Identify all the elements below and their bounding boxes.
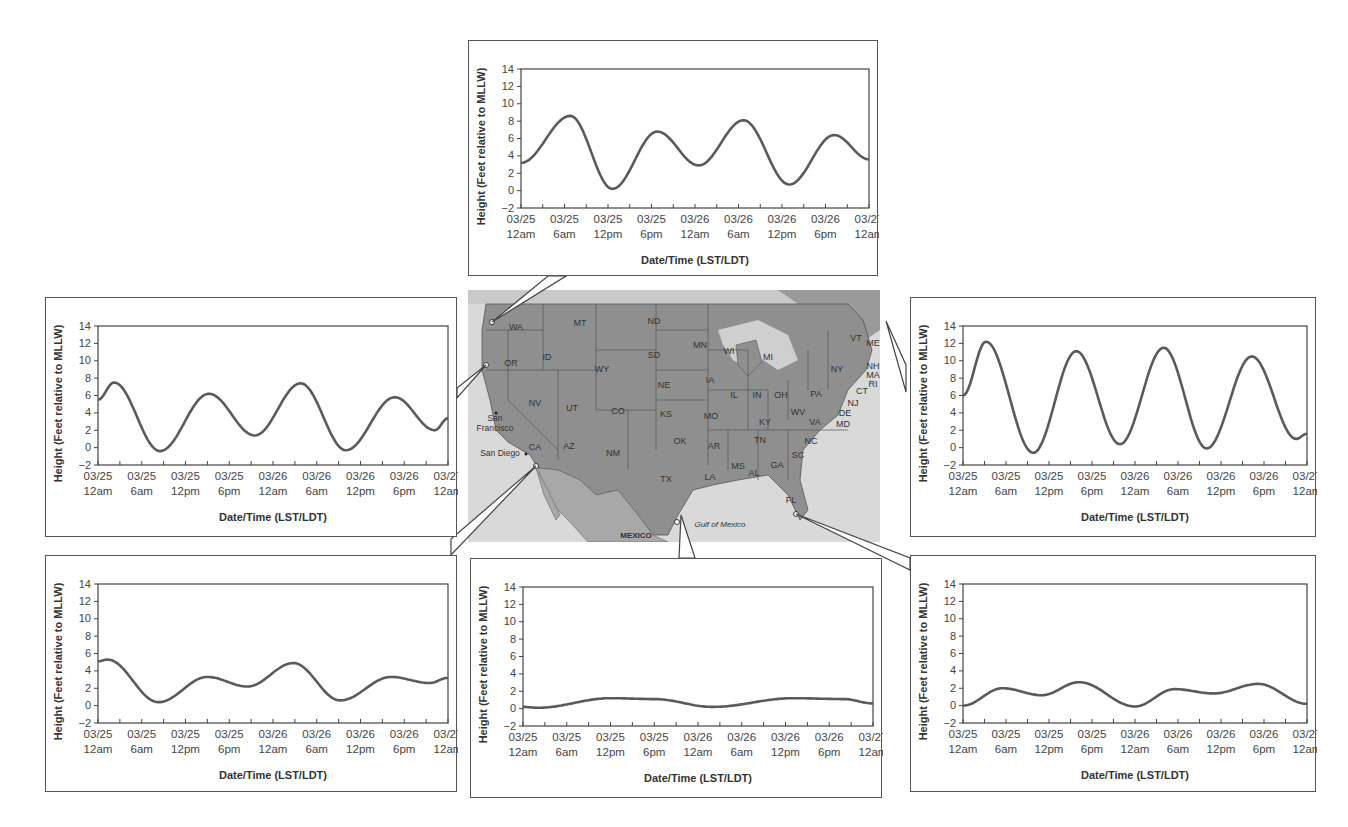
y-tick-label: 10 — [502, 97, 514, 109]
tide-chart-top-center: 14121086420−203/2512am03/256am03/2512pm0… — [468, 40, 878, 276]
y-tick-label: 6 — [510, 650, 516, 662]
state-label-md: MD — [836, 419, 850, 429]
y-tick-label: 4 — [950, 406, 956, 418]
y-tick-label: 2 — [950, 682, 956, 694]
state-label-ms: MS — [731, 461, 745, 471]
x-tick-time: 12am — [1293, 743, 1317, 755]
x-tick-time: 6pm — [643, 746, 665, 758]
x-tick-date: 03/25 — [992, 470, 1021, 482]
state-label-tn: TN — [754, 435, 766, 445]
x-tick-time: 6am — [306, 485, 328, 497]
x-tick-date: 03/25 — [507, 213, 536, 225]
x-tick-date: 03/25 — [1078, 728, 1107, 740]
x-tick-time: 6pm — [1081, 743, 1103, 755]
state-label-ct: CT — [856, 386, 868, 396]
state-label-fl: FL — [786, 495, 797, 505]
x-axis-title: Date/Time (LST/LDT) — [1081, 511, 1189, 523]
x-tick-date: 03/25 — [127, 470, 156, 482]
x-tick-time: 12am — [259, 485, 288, 497]
x-tick-time: 6am — [131, 743, 153, 755]
state-label-nd: ND — [648, 316, 661, 326]
x-tick-date: 03/26 — [1164, 728, 1193, 740]
x-tick-date: 03/25 — [552, 731, 581, 743]
state-label-me: ME — [866, 338, 880, 348]
state-label-nc: NC — [805, 436, 818, 446]
city-label-san-francisco-2: Francisco — [477, 423, 514, 433]
tide-chart-right: 14121086420−203/2512am03/256am03/2512pm0… — [910, 297, 1316, 537]
x-tick-time: 12pm — [1207, 485, 1236, 497]
y-tick-label: 4 — [508, 149, 514, 161]
y-tick-label: 14 — [504, 581, 516, 593]
x-axis-title: Date/Time (LST/LDT) — [219, 769, 327, 781]
x-tick-date: 03/25 — [637, 213, 666, 225]
state-label-wi: WI — [724, 346, 735, 356]
y-tick-label: 14 — [502, 63, 514, 75]
state-label-pa: PA — [810, 389, 821, 399]
y-tick-label: 0 — [950, 441, 956, 453]
x-tick-time: 6am — [1167, 485, 1189, 497]
x-tick-date: 03/27 — [1293, 470, 1317, 482]
x-tick-date: 03/25 — [550, 213, 579, 225]
x-tick-date: 03/25 — [84, 728, 113, 740]
x-tick-time: 12pm — [1035, 743, 1064, 755]
y-tick-label: 4 — [85, 664, 91, 676]
x-tick-time: 12pm — [1207, 743, 1236, 755]
x-tick-time: 12pm — [1035, 485, 1064, 497]
x-axis-title: Date/Time (LST/LDT) — [641, 254, 749, 266]
y-tick-label: −2 — [943, 459, 956, 471]
x-tick-date: 03/26 — [302, 470, 331, 482]
y-tick-label: 14 — [79, 320, 91, 332]
x-tick-date: 03/25 — [84, 470, 113, 482]
state-label-oh: OH — [774, 390, 788, 400]
x-tick-time: 6am — [995, 485, 1017, 497]
x-tick-time: 12am — [434, 743, 458, 755]
state-label-ky: KY — [759, 417, 771, 427]
x-tick-time: 6am — [1167, 743, 1189, 755]
state-label-ri: RI — [869, 379, 878, 389]
x-tick-date: 03/25 — [949, 728, 978, 740]
state-label-la: LA — [704, 472, 715, 482]
state-label-wa: WA — [509, 322, 523, 332]
x-tick-time: 6am — [553, 228, 575, 240]
x-tick-time: 6pm — [1081, 485, 1103, 497]
country-label-mexico: MEXICO — [620, 531, 652, 540]
x-tick-time: 12am — [949, 485, 978, 497]
x-tick-date: 03/26 — [815, 731, 844, 743]
x-tick-date: 03/26 — [1121, 728, 1150, 740]
y-tick-label: −2 — [943, 717, 956, 729]
x-tick-date: 03/26 — [1121, 470, 1150, 482]
x-tick-date: 03/25 — [509, 731, 538, 743]
x-tick-date: 03/26 — [259, 728, 288, 740]
x-tick-date: 03/26 — [346, 470, 375, 482]
state-label-ia: IA — [706, 375, 715, 385]
y-tick-label: 14 — [944, 320, 956, 332]
y-tick-label: 4 — [950, 664, 956, 676]
x-tick-date: 03/26 — [771, 731, 800, 743]
x-tick-date: 03/26 — [390, 470, 419, 482]
tide-line — [521, 116, 869, 189]
y-tick-label: 6 — [85, 389, 91, 401]
x-tick-date: 03/26 — [1250, 728, 1279, 740]
y-tick-label: 12 — [502, 80, 514, 92]
x-tick-date: 03/26 — [768, 213, 797, 225]
x-tick-time: 6am — [131, 485, 153, 497]
x-tick-date: 03/25 — [1035, 728, 1064, 740]
y-tick-label: 10 — [504, 615, 516, 627]
y-tick-label: 12 — [79, 337, 91, 349]
x-tick-time: 12am — [84, 485, 113, 497]
state-label-mn: MN — [693, 340, 707, 350]
y-tick-label: 4 — [510, 667, 516, 679]
y-tick-label: 10 — [79, 354, 91, 366]
y-tick-label: 0 — [950, 699, 956, 711]
y-tick-label: −2 — [78, 459, 91, 471]
state-label-ks: KS — [660, 409, 672, 419]
x-tick-time: 6am — [727, 228, 749, 240]
state-label-ca: CA — [529, 442, 542, 452]
x-tick-date: 03/25 — [1078, 470, 1107, 482]
x-tick-time: 12pm — [594, 228, 623, 240]
x-tick-time: 6pm — [218, 743, 240, 755]
x-tick-time: 6am — [306, 743, 328, 755]
x-tick-date: 03/26 — [727, 731, 756, 743]
x-tick-time: 12am — [1121, 743, 1150, 755]
x-tick-time: 6pm — [1253, 485, 1275, 497]
